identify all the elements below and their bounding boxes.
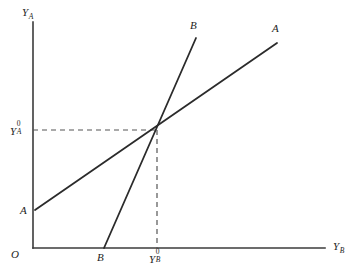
curve-b-line — [104, 38, 196, 248]
origin-label: O — [11, 249, 19, 260]
equilibrium-x-scripts: 0B — [155, 252, 161, 263]
equilibrium-y-label: Y0A — [10, 124, 22, 137]
y-axis-label: YA — [22, 7, 33, 18]
curve-a-end-label: A — [272, 23, 279, 34]
curve-a-start-label: A — [20, 205, 27, 216]
curve-a-line — [35, 43, 277, 210]
equilibrium-x-label: Y0B — [149, 252, 161, 265]
plot-canvas — [0, 0, 361, 278]
economics-line-diagram: YA YB O Y0A Y0B A A B B — [0, 0, 361, 278]
equilibrium-y-scripts: 0A — [16, 124, 22, 135]
x-axis-label: YB — [333, 241, 344, 252]
curve-b-end-label: B — [190, 20, 197, 31]
curve-b-start-label: B — [97, 252, 104, 263]
